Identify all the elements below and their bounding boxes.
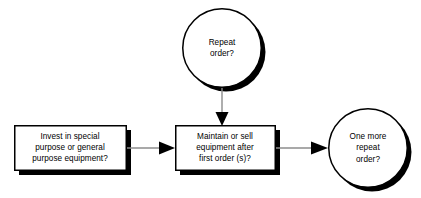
node-one-more-repeat-order[interactable] [329, 109, 408, 188]
connector-invest-to-maintain [126, 142, 175, 155]
node-invest-equipment[interactable] [15, 126, 127, 171]
connector-maintain-to-onemore [275, 142, 328, 155]
connector-repeat-to-maintain [216, 86, 229, 126]
node-repeat-order[interactable] [183, 9, 262, 88]
flowchart-graphics [0, 0, 421, 198]
node-maintain-or-sell[interactable] [176, 126, 276, 171]
flowchart-canvas: Invest in special purpose or general pur… [0, 0, 421, 198]
